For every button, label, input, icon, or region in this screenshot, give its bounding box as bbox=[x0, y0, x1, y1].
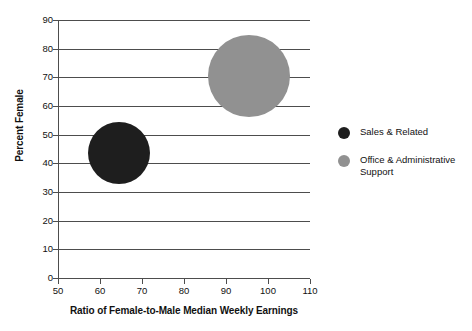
bubble-sales-related[interactable] bbox=[88, 122, 150, 184]
x-tick-label-60: 60 bbox=[80, 286, 120, 296]
x-tick-label-70: 70 bbox=[122, 286, 162, 296]
y-tick-label-80: 80 bbox=[31, 44, 53, 54]
x-tick-mark-80 bbox=[184, 279, 185, 284]
y-tick-mark-30 bbox=[53, 192, 58, 193]
x-axis-title: Ratio of Female-to-Male Median Weekly Ea… bbox=[58, 305, 310, 316]
legend-item-1[interactable]: Office & Administrative Support bbox=[338, 154, 470, 177]
legend-item-0[interactable]: Sales & Related bbox=[338, 126, 470, 140]
gridline-y-20 bbox=[58, 221, 310, 222]
y-axis-tick-labels: 0102030405060708090 bbox=[29, 0, 53, 331]
x-tick-mark-70 bbox=[142, 279, 143, 284]
x-tick-label-110: 110 bbox=[290, 286, 330, 296]
x-tick-mark-60 bbox=[100, 279, 101, 284]
x-tick-mark-50 bbox=[58, 279, 59, 284]
y-tick-mark-50 bbox=[53, 135, 58, 136]
x-tick-label-50: 50 bbox=[38, 286, 78, 296]
y-tick-label-70: 70 bbox=[31, 72, 53, 82]
y-tick-label-20: 20 bbox=[31, 216, 53, 226]
bubble-chart: Percent Female 0102030405060708090 50607… bbox=[0, 0, 472, 331]
legend-label-1: Office & Administrative Support bbox=[360, 154, 470, 177]
y-tick-mark-70 bbox=[53, 77, 58, 78]
gridline-y-30 bbox=[58, 192, 310, 193]
bubble-office-administrative-support[interactable] bbox=[208, 35, 290, 117]
plot-area bbox=[58, 20, 310, 278]
y-tick-mark-60 bbox=[53, 106, 58, 107]
y-tick-mark-40 bbox=[53, 163, 58, 164]
x-tick-label-80: 80 bbox=[164, 286, 204, 296]
gridline-y-90 bbox=[58, 20, 310, 21]
y-tick-label-90: 90 bbox=[31, 15, 53, 25]
x-tick-mark-90 bbox=[226, 279, 227, 284]
y-axis-title: Percent Female bbox=[14, 71, 25, 181]
y-tick-label-30: 30 bbox=[31, 187, 53, 197]
y-tick-mark-80 bbox=[53, 49, 58, 50]
gridline-y-10 bbox=[58, 249, 310, 250]
chart-legend: Sales & RelatedOffice & Administrative S… bbox=[338, 126, 470, 191]
y-tick-label-60: 60 bbox=[31, 101, 53, 111]
y-tick-mark-0 bbox=[53, 278, 58, 279]
y-tick-mark-10 bbox=[53, 249, 58, 250]
x-tick-label-100: 100 bbox=[248, 286, 288, 296]
y-tick-mark-90 bbox=[53, 20, 58, 21]
x-tick-mark-100 bbox=[268, 279, 269, 284]
y-tick-label-50: 50 bbox=[31, 130, 53, 140]
y-tick-mark-20 bbox=[53, 221, 58, 222]
x-tick-label-90: 90 bbox=[206, 286, 246, 296]
x-tick-mark-110 bbox=[310, 279, 311, 284]
y-tick-label-0: 0 bbox=[31, 273, 53, 283]
y-tick-label-40: 40 bbox=[31, 158, 53, 168]
legend-swatch-icon-1 bbox=[338, 155, 350, 167]
legend-swatch-icon-0 bbox=[338, 127, 350, 139]
y-tick-label-10: 10 bbox=[31, 244, 53, 254]
legend-label-0: Sales & Related bbox=[360, 126, 470, 138]
